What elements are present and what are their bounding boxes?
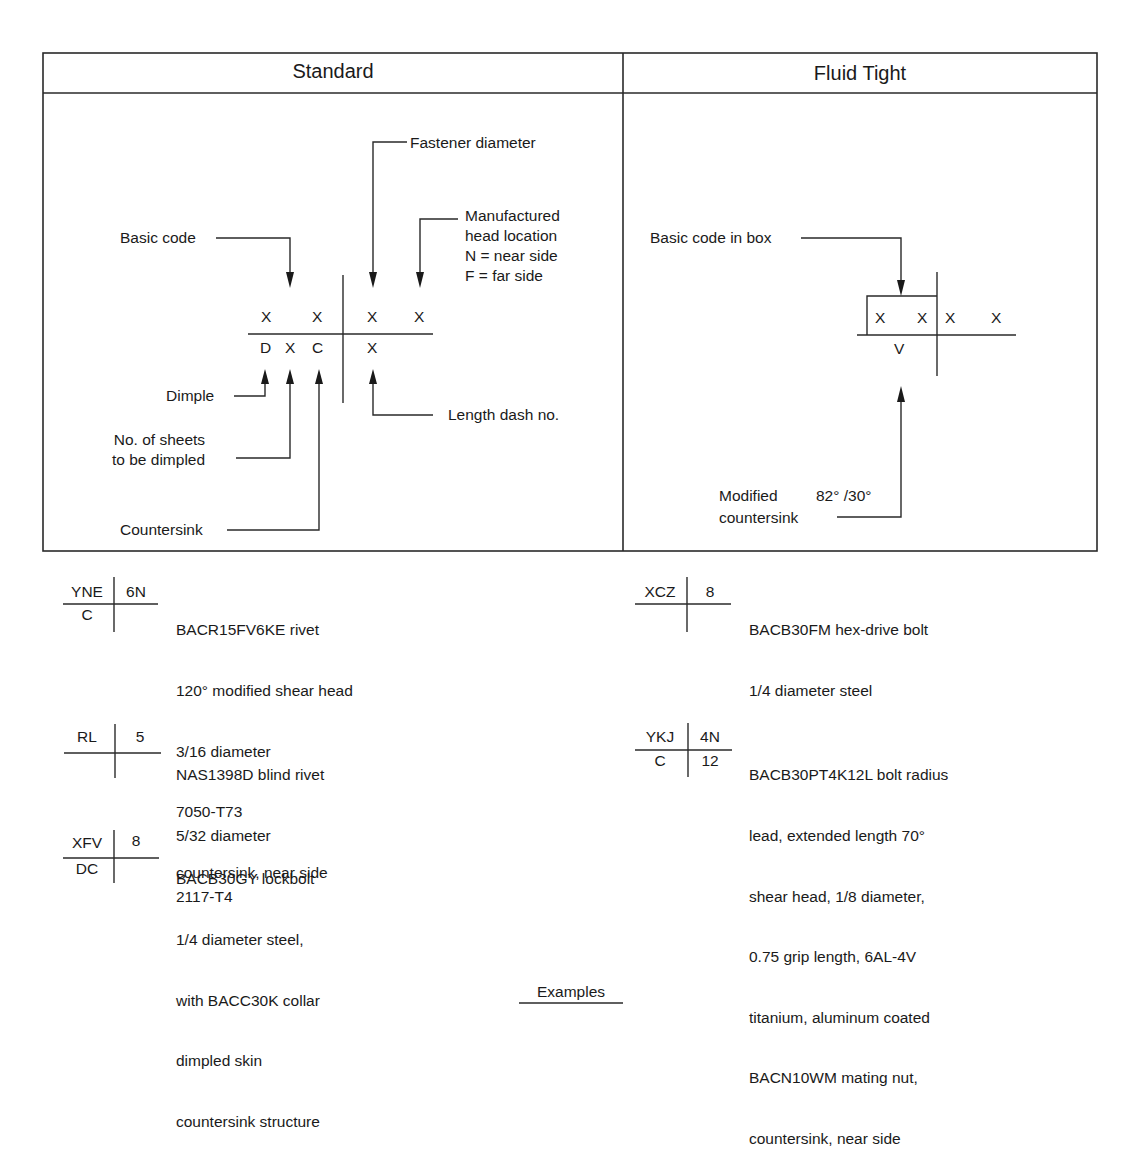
example-desc: BACB30FM hex-drive bolt 1/4 diameter ste…	[749, 580, 928, 742]
label-angle: 82° /30°	[816, 486, 872, 506]
grid-bottom-x: X	[285, 339, 295, 357]
label-basic-code: Basic code	[120, 228, 196, 248]
label-dimple: Dimple	[166, 386, 214, 406]
label-basic-code-in-box: Basic code in box	[650, 228, 772, 248]
ft-grid-top-2: X	[917, 309, 927, 327]
grid-top-1: X	[261, 308, 271, 326]
ft-grid-top-3: X	[945, 309, 955, 327]
example-code-tr: 5	[120, 728, 160, 746]
example-code-tl: RL	[64, 728, 110, 746]
example-code-tl: XFV	[64, 834, 110, 852]
label-length-dash: Length dash no.	[448, 405, 559, 425]
example-code-br: 12	[692, 752, 728, 770]
example-code-tr: 8	[692, 583, 728, 601]
example-desc: BACB30GY lockbolt 1/4 diameter steel, wi…	[176, 829, 320, 1150]
grid-bottom-length: X	[367, 339, 377, 357]
example-code-tr: 8	[118, 832, 154, 850]
example-code-bl: C	[636, 752, 684, 770]
ft-grid-top-4: X	[991, 309, 1001, 327]
label-countersink-ft: countersink	[719, 508, 798, 528]
ft-grid-bottom-v: V	[894, 340, 904, 358]
example-code-tl: YNE	[64, 583, 110, 601]
column-header-fluid-tight: Fluid Tight	[623, 62, 1097, 85]
example-code-tr: 4N	[692, 728, 728, 746]
example-code-tl: YKJ	[636, 728, 684, 746]
label-modified: Modified	[719, 486, 778, 506]
grid-bottom-d: D	[260, 339, 271, 357]
column-header-standard: Standard	[43, 60, 623, 83]
example-code-bl: DC	[64, 860, 110, 878]
grid-top-3: X	[367, 308, 377, 326]
example-code-bl: C	[64, 606, 110, 624]
grid-bottom-c: C	[312, 339, 323, 357]
example-desc: BACB30PT4K12L bolt radius lead, extended…	[749, 725, 948, 1150]
figure-caption: Examples	[519, 982, 623, 1002]
example-code-tr: 6N	[118, 583, 154, 601]
label-manufactured-head: Manufactured head location N = near side…	[465, 206, 560, 286]
ft-grid-top-1: X	[875, 309, 885, 327]
example-code-tl: XCZ	[636, 583, 684, 601]
label-no-of-sheets: No. of sheets to be dimpled	[112, 430, 205, 470]
label-countersink: Countersink	[120, 520, 203, 540]
grid-top-4: X	[414, 308, 424, 326]
grid-top-2: X	[312, 308, 322, 326]
label-fastener-diameter: Fastener diameter	[410, 133, 536, 153]
